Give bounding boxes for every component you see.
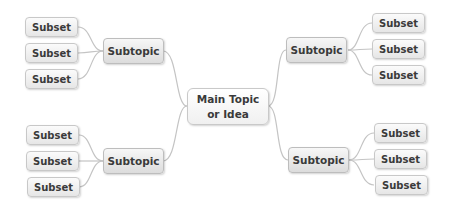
subset-bottom-left-2[interactable]: Subset xyxy=(26,151,79,171)
main-topic-line1: Main Topic xyxy=(197,92,260,107)
subset-bottom-left-1[interactable]: Subset xyxy=(26,125,79,145)
subset-bottom-right-2[interactable]: Subset xyxy=(374,149,427,169)
subset-bottom-right-1[interactable]: Subset xyxy=(374,123,427,143)
subset-bottom-left-3[interactable]: Subset xyxy=(27,177,80,197)
subtopic-bottom-left[interactable]: Subtopic xyxy=(103,148,164,174)
subset-top-right-3[interactable]: Subset xyxy=(372,65,425,85)
subtopic-bottom-right[interactable]: Subtopic xyxy=(288,147,349,173)
subtopic-top-right[interactable]: Subtopic xyxy=(286,37,347,63)
subset-top-left-1[interactable]: Subset xyxy=(25,17,78,37)
subset-top-left-3[interactable]: Subset xyxy=(25,69,78,89)
subset-top-right-1[interactable]: Subset xyxy=(372,13,425,33)
subset-top-right-2[interactable]: Subset xyxy=(372,39,425,59)
subset-bottom-right-3[interactable]: Subset xyxy=(375,175,428,195)
main-topic-node[interactable]: Main Topic or Idea xyxy=(187,88,269,125)
subset-top-left-2[interactable]: Subset xyxy=(25,43,78,63)
main-topic-line2: or Idea xyxy=(207,107,249,122)
subtopic-top-left[interactable]: Subtopic xyxy=(103,38,164,64)
